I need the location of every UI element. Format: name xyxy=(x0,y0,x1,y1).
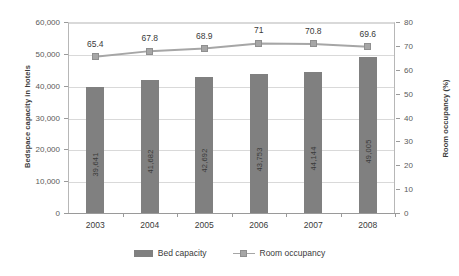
y-axis-right-tick-label: 20 xyxy=(404,161,444,170)
x-axis-tickmark xyxy=(123,213,124,217)
y-axis-right-tickmark xyxy=(396,165,400,166)
x-axis-label-2006: 2006 xyxy=(232,220,286,230)
line-marker-2003[interactable] xyxy=(92,53,99,60)
x-axis-tickmark xyxy=(232,213,233,217)
line-marker-2007[interactable] xyxy=(310,40,317,47)
chart-container: Bedspace capacity in hotels Room occupan… xyxy=(0,0,459,276)
line-marker-2005[interactable] xyxy=(201,45,208,52)
y-axis-right-tickmark xyxy=(396,46,400,47)
y-axis-left-tick-label: 10,000 xyxy=(14,177,60,186)
y-axis-right-tickmark xyxy=(396,213,400,214)
bar-swatch-icon xyxy=(134,250,153,257)
x-axis-tickmark xyxy=(177,213,178,217)
x-axis-label-2005: 2005 xyxy=(177,220,231,230)
legend-item-bed-capacity[interactable]: Bed capacity xyxy=(134,248,207,258)
line-marker-2006[interactable] xyxy=(255,40,262,47)
y-axis-right-tickmark xyxy=(396,141,400,142)
x-axis-label-2004: 2004 xyxy=(123,220,177,230)
y-axis-right-tick-label: 10 xyxy=(404,185,444,194)
y-axis-right-tick-label: 0 xyxy=(404,209,444,218)
line-value-label-2004: 67.8 xyxy=(130,33,170,43)
chart-legend: Bed capacity Room occupancy xyxy=(0,248,459,258)
y-axis-left-tick-label: 20,000 xyxy=(14,145,60,154)
y-axis-left-tick-label: 50,000 xyxy=(14,50,60,59)
y-axis-left-tick-label: 30,000 xyxy=(14,114,60,123)
y-axis-left-tick-label: 0 xyxy=(14,209,60,218)
y-axis-right-tick-label: 60 xyxy=(404,66,444,75)
line-value-label-2006: 71 xyxy=(239,25,279,35)
line-value-label-2008: 69.6 xyxy=(348,29,388,39)
y-axis-right-tick-label: 80 xyxy=(404,18,444,27)
x-axis-label-2008: 2008 xyxy=(341,220,395,230)
x-axis-tickmark xyxy=(341,213,342,217)
y-axis-right-tickmark xyxy=(396,22,400,23)
y-axis-right-tick-label: 50 xyxy=(404,90,444,99)
line-square-swatch-icon xyxy=(233,249,255,257)
y-axis-left-tick-label: 60,000 xyxy=(14,18,60,27)
line-value-label-2007: 70.8 xyxy=(293,26,333,36)
x-axis-tickmark xyxy=(395,213,396,217)
y-axis-right-tick-label: 70 xyxy=(404,42,444,51)
y-axis-right-tickmark xyxy=(396,70,400,71)
y-axis-left-tickmark xyxy=(64,213,68,214)
y-axis-right-tickmark xyxy=(396,94,400,95)
y-axis-right-tickmark xyxy=(396,189,400,190)
line-value-label-2005: 68.9 xyxy=(184,31,224,41)
room-occupancy-line xyxy=(68,22,395,213)
line-marker-2008[interactable] xyxy=(364,43,371,50)
y-axis-right-tick-label: 30 xyxy=(404,137,444,146)
y-axis-left-tick-label: 40,000 xyxy=(14,82,60,91)
line-value-label-2003: 65.4 xyxy=(75,39,115,49)
x-axis-label-2007: 2007 xyxy=(286,220,340,230)
x-axis-tickmark xyxy=(286,213,287,217)
legend-item-room-occupancy[interactable]: Room occupancy xyxy=(233,248,326,258)
legend-label-room-occupancy: Room occupancy xyxy=(260,248,326,258)
line-marker-2004[interactable] xyxy=(146,48,153,55)
legend-label-bed-capacity: Bed capacity xyxy=(158,248,207,258)
y-axis-right-tickmark xyxy=(396,118,400,119)
y-axis-right-tick-label: 40 xyxy=(404,114,444,123)
x-axis-label-2003: 2003 xyxy=(68,220,122,230)
